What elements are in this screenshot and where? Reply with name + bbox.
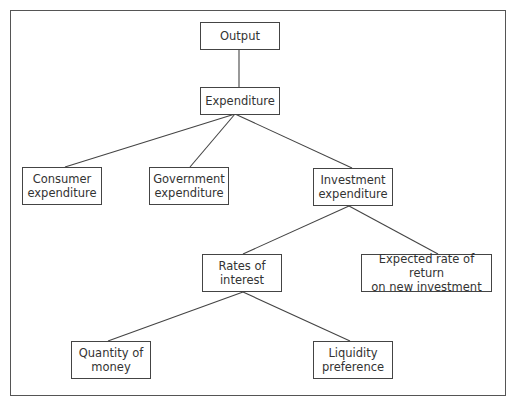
node-rates: Rates of interest	[202, 254, 282, 292]
edge-rates-quantity	[108, 292, 243, 341]
edge-investment-expected	[349, 206, 438, 254]
edge-expenditure-consumer	[65, 114, 235, 167]
node-expenditure: Expenditure	[200, 87, 280, 115]
edge-expenditure-government	[190, 114, 235, 167]
node-quantity: Quantity of money	[71, 341, 151, 379]
node-consumer: Consumer expenditure	[22, 167, 102, 205]
edge-expenditure-investment	[235, 114, 352, 168]
node-investment: Investment expenditure	[313, 168, 393, 206]
node-output: Output	[200, 22, 280, 50]
node-government: Government expenditure	[149, 167, 229, 205]
edge-investment-rates	[243, 206, 349, 254]
node-expected: Expected rate of return on new investmen…	[361, 254, 492, 292]
node-liquidity: Liquidity preference	[313, 341, 393, 379]
edge-rates-liquidity	[243, 292, 350, 341]
